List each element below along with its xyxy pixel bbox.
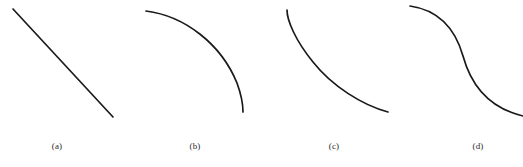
panel-caption-a: (a) [37, 142, 77, 151]
panel-caption-d: (d) [458, 142, 498, 151]
curve-c [287, 10, 388, 112]
figure-container: (a) (b) (c) (d) [0, 0, 523, 167]
curve-a [13, 9, 113, 117]
curve-b [146, 11, 243, 112]
panel-caption-b: (b) [175, 142, 215, 151]
panel-caption-c: (c) [314, 142, 354, 151]
curves-canvas [0, 0, 523, 167]
curve-d [410, 6, 523, 116]
